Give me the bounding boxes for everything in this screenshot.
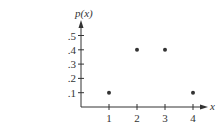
y-tick-label: .2 [68,72,76,84]
y-tick-label: .5 [68,30,77,42]
y-axis-title: p(x) [74,7,93,20]
data-points [107,48,195,95]
y-ticks: .1.2.3.4.5 [68,30,84,99]
x-tick-label: 4 [190,112,196,124]
probability-chart: p(x) x 1234 .1.2.3.4.5 [0,0,223,127]
x-tick-label: 2 [134,112,140,124]
data-point [107,91,111,95]
y-tick-label: .3 [68,58,77,70]
axes: p(x) x [74,7,215,112]
y-tick-label: .1 [68,87,76,99]
x-tick-label: 1 [106,112,112,124]
y-tick-label: .4 [68,44,77,56]
data-point [191,91,195,95]
y-axis-arrow-icon [79,20,84,28]
x-axis-title: x [209,100,215,112]
data-point [135,48,139,52]
x-tick-label: 3 [162,112,168,124]
x-axis-arrow-icon [200,105,208,110]
data-point [163,48,167,52]
